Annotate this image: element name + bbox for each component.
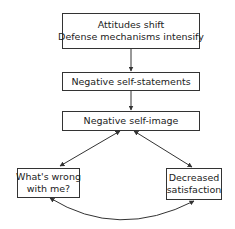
node-label-line: Decreased (169, 172, 220, 184)
node-whats-wrong-with-me: What's wrong with me? (17, 168, 80, 198)
node-label-line: Defense mechanisms intensify (58, 31, 204, 43)
node-negative-self-image: Negative self-image (62, 111, 200, 131)
node-decreased-satisfaction: Decreased satisfaction (166, 168, 222, 200)
node-label-line: What's wrong (16, 171, 81, 183)
node-attitudes-shift: Attitudes shift Defense mechanisms inten… (62, 13, 200, 49)
node-label-line: Attitudes shift (98, 19, 165, 31)
node-label-line: satisfaction (167, 184, 222, 196)
arrow-n3-n5 (134, 131, 192, 167)
node-label-line: Negative self-statements (71, 76, 190, 88)
arrow-n4-n5-curve (50, 198, 194, 220)
arrow-n3-n4 (60, 131, 120, 166)
node-label-line: with me? (27, 183, 70, 195)
node-negative-self-statements: Negative self-statements (62, 72, 200, 91)
node-label-line: Negative self-image (84, 115, 179, 127)
